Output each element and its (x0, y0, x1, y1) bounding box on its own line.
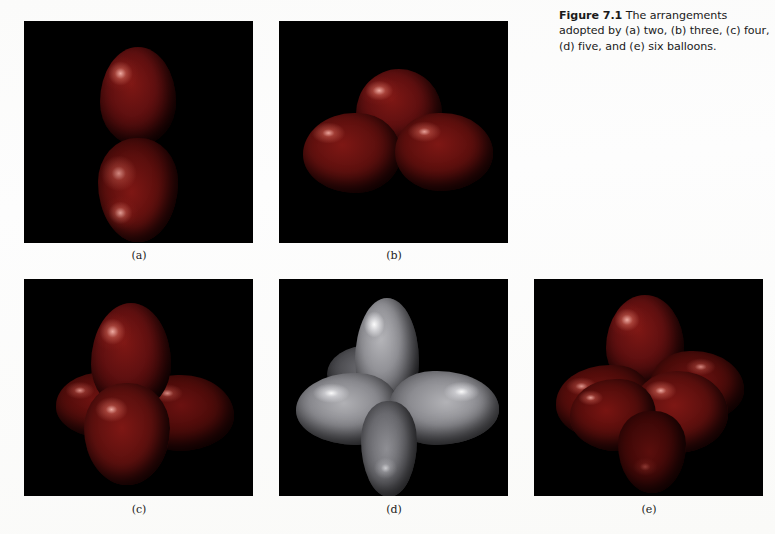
panel-b-photo (279, 21, 508, 243)
panel-e-photo (534, 279, 763, 496)
panel-d (279, 279, 508, 496)
panel-e (534, 279, 763, 496)
figure-number: Figure 7.1 (559, 9, 622, 22)
panel-c-label: (c) (84, 503, 194, 516)
figure-caption: Figure 7.1 The arrangements adopted by (… (559, 8, 771, 54)
panel-b (279, 21, 508, 243)
panel-b-label: (b) (339, 249, 449, 262)
panel-e-label: (e) (594, 503, 704, 516)
panel-d-photo (279, 279, 508, 496)
balloon-a-1 (100, 47, 176, 145)
balloon-d-bottom (361, 401, 417, 496)
balloon-a-2 (98, 138, 178, 242)
panel-a-label: (a) (84, 249, 194, 262)
balloon-b-left (303, 113, 401, 193)
panel-c-photo (24, 279, 253, 496)
balloon-b-right (395, 113, 493, 191)
panel-d-label: (d) (339, 503, 449, 516)
balloon-c-front (84, 383, 170, 485)
panel-c (24, 279, 253, 496)
panel-a-photo (24, 21, 253, 243)
panel-a (24, 21, 253, 243)
balloon-e-bottom (618, 411, 686, 493)
